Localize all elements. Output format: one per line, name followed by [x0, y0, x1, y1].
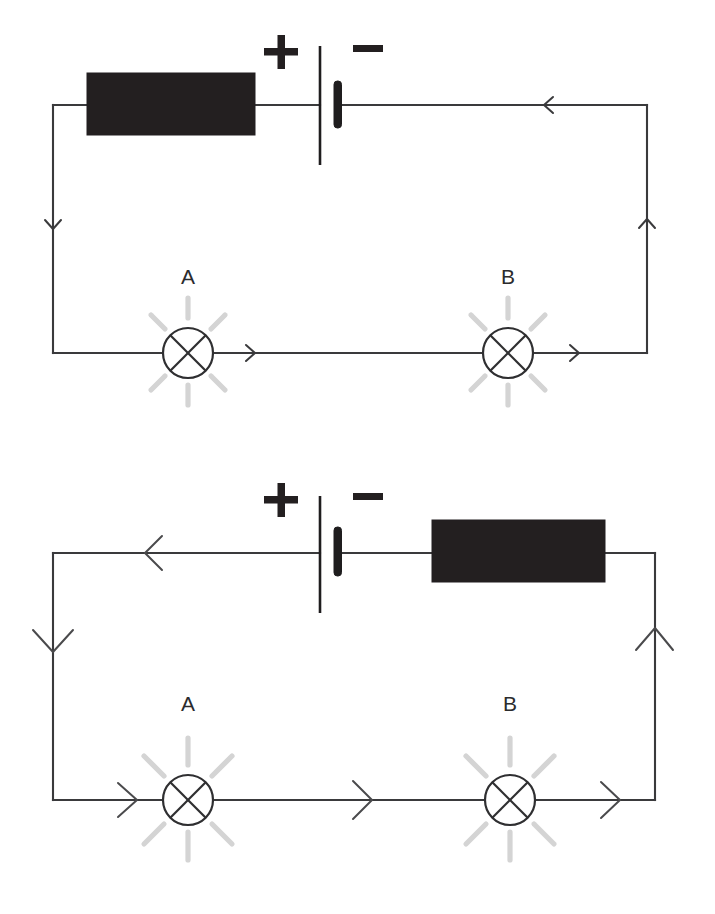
lamp-a-group: A — [151, 265, 225, 405]
battery-minus-sign-2 — [353, 493, 383, 500]
upper-circuit: A B — [45, 35, 655, 405]
lamp-a-group-2: A — [144, 692, 232, 860]
battery-negative-plate-2 — [334, 527, 342, 576]
lamp-b-group-2: B — [466, 692, 554, 860]
lamp-b-label-2: B — [503, 692, 517, 715]
circuit-diagram-figure: A B — [0, 0, 715, 914]
resistor-block — [87, 73, 255, 135]
lamp-b-group: B — [471, 265, 545, 405]
resistor-block-2 — [432, 520, 605, 582]
lamp-b-label: B — [501, 265, 515, 288]
battery-negative-plate — [334, 81, 342, 128]
lamp-a-label-2: A — [181, 692, 195, 715]
battery-minus-sign — [353, 45, 383, 52]
lower-circuit: A B — [33, 483, 673, 860]
battery-plus-sign — [264, 35, 298, 69]
battery-plus-sign-2 — [264, 483, 298, 517]
diagram-canvas: A B — [0, 0, 715, 914]
lamp-a-label: A — [181, 265, 195, 288]
